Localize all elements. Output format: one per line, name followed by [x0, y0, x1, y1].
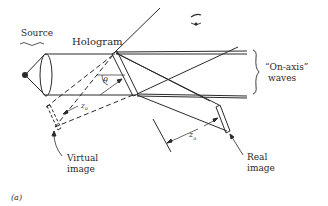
- virtual-image-plate: [47, 105, 61, 130]
- real-image-label-line2: image: [247, 163, 275, 173]
- virtual-image-label-line1: Virtual: [67, 153, 98, 163]
- source-wave-icon: [20, 43, 44, 46]
- eye-icon: [191, 14, 201, 25]
- on-axis-waves: [116, 47, 247, 101]
- on-axis-label-line2: waves: [268, 73, 296, 83]
- on-axis-brace: [253, 50, 259, 94]
- on-axis-label-line1: “On-axis”: [265, 62, 308, 72]
- real-z0-label: zo: [189, 130, 196, 143]
- panel-label: (a): [11, 193, 22, 203]
- theta-label: θ: [103, 76, 108, 86]
- hologram-diagram: Source Hologram θ “On-axis” waves zo zo …: [0, 0, 328, 206]
- virtual-image-label-line2: image: [67, 164, 95, 174]
- real-image-plate: [216, 105, 230, 133]
- real-z0-reference: [153, 119, 171, 152]
- lens: [40, 54, 52, 96]
- virtual-rays: [45, 55, 133, 127]
- real-image-label-line1: Real: [247, 152, 267, 162]
- hologram-label: Hologram: [72, 37, 123, 47]
- source-label: Source: [21, 28, 53, 38]
- virtual-z0-label: zo: [81, 101, 88, 113]
